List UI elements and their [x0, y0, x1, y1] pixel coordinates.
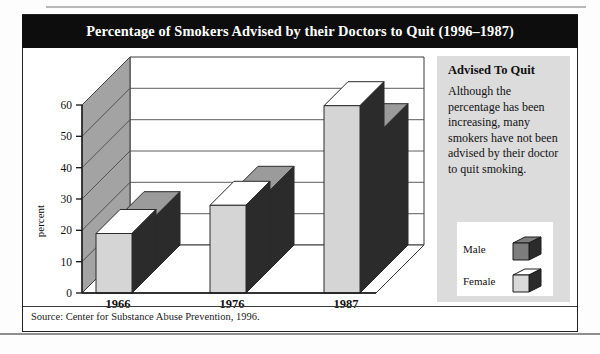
y-tick-30: 30 — [61, 193, 73, 205]
legend-item-female: Female — [463, 268, 543, 294]
figure-page: Percentage of Smokers Advised by their D… — [0, 0, 600, 354]
bar-chart-3d: 0 10 20 30 40 50 60 percent — [24, 49, 436, 311]
bar-1976-female — [210, 181, 270, 293]
top-rule — [46, 6, 586, 8]
source-separator — [23, 306, 577, 307]
chart-title-banner: Percentage of Smokers Advised by their D… — [22, 15, 578, 48]
page-title: Percentage of Smokers Advised by their D… — [86, 23, 514, 40]
y-tick-20: 20 — [61, 224, 73, 236]
chart-area: 0 10 20 30 40 50 60 percent — [24, 49, 436, 311]
legend-item-male: Male — [463, 236, 543, 262]
cube-icon — [511, 268, 543, 294]
x-tick-1966: 1966 — [106, 297, 131, 311]
y-tick-0: 0 — [66, 287, 72, 299]
x-tick-1987: 1987 — [334, 297, 359, 311]
legend-label-male: Male — [463, 243, 511, 255]
side-panel-heading: Advised To Quit — [448, 63, 535, 78]
bar-1987-female — [324, 82, 384, 293]
legend-label-female: Female — [463, 275, 511, 287]
x-tick-1976: 1976 — [220, 297, 245, 311]
y-tick-40: 40 — [61, 162, 73, 174]
y-tick-50: 50 — [61, 130, 73, 142]
y-tick-10: 10 — [61, 256, 73, 268]
cube-icon — [511, 236, 543, 262]
source-note: Source: Center for Substance Abuse Preve… — [31, 311, 260, 322]
bottom-rule — [0, 333, 600, 335]
y-tick-60: 60 — [61, 99, 73, 111]
y-axis-title: percent — [34, 205, 46, 237]
side-panel-body: Although the percentage has been increas… — [448, 84, 564, 178]
y-axis: 0 10 20 30 40 50 60 — [61, 99, 83, 299]
